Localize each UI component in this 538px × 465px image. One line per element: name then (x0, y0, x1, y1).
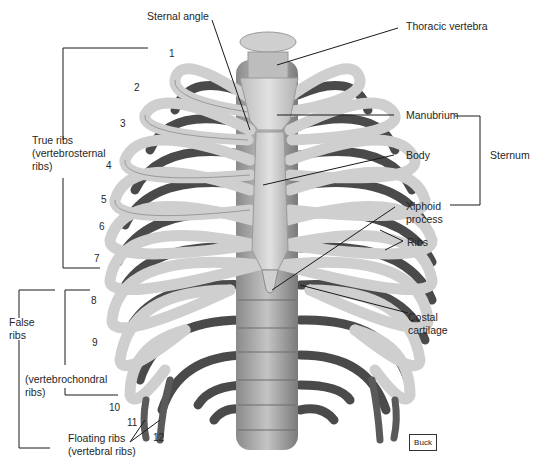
rib-number-5: 5 (101, 194, 107, 205)
label-costal-cartilage: Costal cartilage (408, 311, 448, 337)
rib-number-9: 9 (92, 337, 98, 348)
label-floating-ribs: Floating ribs (vertebral ribs) (68, 432, 136, 458)
artist-credit-box: Buck (409, 434, 437, 451)
rib-number-7: 7 (94, 253, 100, 264)
rib-number-8: 8 (91, 295, 97, 306)
label-thoracic-vertebra: Thoracic vertebra (406, 20, 488, 33)
rib-number-10: 10 (109, 402, 120, 413)
sternum-body (252, 132, 288, 270)
rib-number-4: 4 (106, 160, 112, 171)
thoracic-vertebra-body (240, 32, 296, 52)
label-ribs: Ribs (407, 236, 428, 249)
label-false-ribs: False ribs (9, 316, 35, 342)
label-sternum: Sternum (490, 149, 530, 162)
rib-number-2: 2 (134, 82, 140, 93)
label-manubrium: Manubrium (406, 109, 459, 122)
label-body: Body (406, 149, 430, 162)
label-xiphoid-process: Xiphoid process (406, 200, 443, 226)
label-true-ribs: True ribs (vertebrosternal ribs) (32, 134, 106, 173)
rib-number-11: 11 (127, 417, 137, 428)
rib-number-1: 1 (169, 48, 175, 59)
rib-number-6: 6 (99, 221, 105, 232)
rib-number-3: 3 (120, 118, 126, 129)
label-sternal-angle: Sternal angle (147, 10, 209, 23)
rib-number-12: 12 (153, 432, 164, 443)
label-vertebrochondral-ribs: (vertebrochondral ribs) (25, 373, 107, 399)
